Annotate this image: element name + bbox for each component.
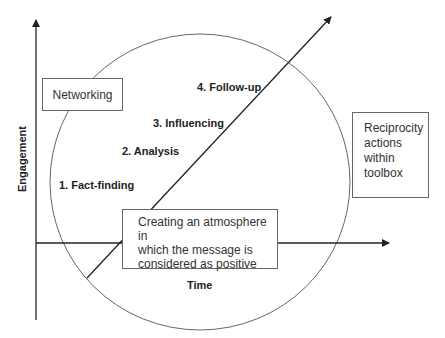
reciprocity-box: Reciprocity actions within toolbox [352, 112, 429, 198]
atmosphere-line-2: which the message is [138, 243, 277, 257]
reciprocity-line-4: toolbox [364, 166, 428, 181]
networking-label: Networking [52, 88, 112, 102]
x-axis-label: Time [187, 279, 212, 291]
reciprocity-line-1: Reciprocity [364, 121, 428, 136]
atmosphere-line-1: Creating an atmosphere in [138, 215, 277, 243]
engagement-time-diagram: Networking Reciprocity actions within to… [0, 0, 445, 338]
networking-box: Networking [42, 78, 123, 111]
stage-influencing: 3. Influencing [153, 117, 224, 129]
atmosphere-box: Creating an atmosphere in which the mess… [122, 209, 278, 269]
reciprocity-line-3: within [364, 151, 428, 166]
stage-follow-up: 4. Follow-up [197, 81, 261, 93]
reciprocity-line-2: actions [364, 136, 428, 151]
y-axis-label: Engagement [16, 119, 28, 199]
stage-analysis: 2. Analysis [122, 145, 179, 157]
atmosphere-line-3: considered as positive [138, 257, 277, 271]
stage-fact-finding: 1. Fact-finding [59, 179, 134, 191]
